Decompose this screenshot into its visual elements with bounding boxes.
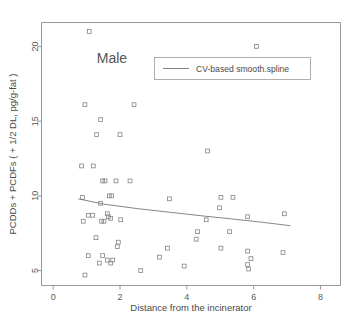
chart-background — [0, 0, 363, 326]
y-tick-label: 5 — [30, 268, 40, 273]
x-tick-label: 0 — [51, 292, 56, 302]
panel-title: Male — [97, 50, 128, 66]
chart-figure: 5101520 02468 PCDDs + PCDFs ( + 1/2 DL, … — [0, 0, 363, 326]
y-axis-title: PCDDs + PCDFs ( + 1/2 DL, pg/g-fat ) — [7, 73, 18, 234]
legend-label: CV-based smooth.spline — [196, 64, 289, 74]
x-tick-label: 8 — [318, 292, 323, 302]
y-tick-label: 10 — [30, 191, 40, 201]
x-tick-label: 6 — [251, 292, 256, 302]
figure-caption-faint — [0, 308, 363, 326]
y-tick-label: 20 — [30, 41, 40, 51]
y-tick-label: 15 — [30, 116, 40, 126]
scatter-plot: 5101520 02468 PCDDs + PCDFs ( + 1/2 DL, … — [0, 0, 363, 326]
chart-legend: CV-based smooth.spline — [155, 58, 311, 80]
x-tick-label: 4 — [184, 292, 189, 302]
x-tick-label: 2 — [118, 292, 123, 302]
